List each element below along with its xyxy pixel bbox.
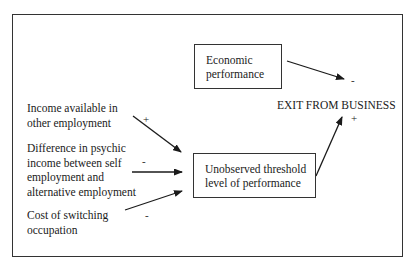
factor-income-line-2: other employment [27, 116, 118, 131]
factor-cost-line-1: Cost of switching [27, 208, 108, 223]
factor-cost-line-2: occupation [27, 223, 108, 238]
factor-psychic-line-2: income between self [27, 156, 136, 171]
threshold-line-1: Unobserved threshold [205, 162, 315, 176]
sign-income: + [143, 114, 149, 125]
factor-cost-label: Cost of switching occupation [27, 208, 108, 237]
exit-from-business-label: EXIT FROM BUSINESS [277, 98, 396, 113]
economic-performance-line-1: Economic [206, 53, 281, 67]
sign-cost: - [145, 210, 149, 221]
arrow-economic-to-exit [287, 61, 344, 79]
economic-performance-box: Economic performance [194, 44, 282, 89]
arrow-threshold-to-exit [316, 117, 342, 176]
sign-psychic: - [142, 156, 146, 167]
threshold-line-2: level of performance [205, 176, 315, 190]
economic-performance-line-2: performance [206, 67, 281, 81]
factor-psychic-line-3: employment and [27, 170, 136, 185]
threshold-box: Unobserved threshold level of performanc… [193, 153, 316, 198]
sign-economic-to-exit: - [351, 75, 355, 86]
sign-threshold-to-exit: + [351, 113, 357, 124]
factor-psychic-line-1: Difference in psychic [27, 141, 136, 156]
factor-income-label: Income available in other employment [27, 101, 118, 130]
arrow-income-to-threshold [133, 116, 181, 152]
factor-psychic-line-4: alternative employment [27, 185, 136, 200]
factor-income-line-1: Income available in [27, 101, 118, 116]
factor-psychic-label: Difference in psychic income between sel… [27, 141, 136, 199]
